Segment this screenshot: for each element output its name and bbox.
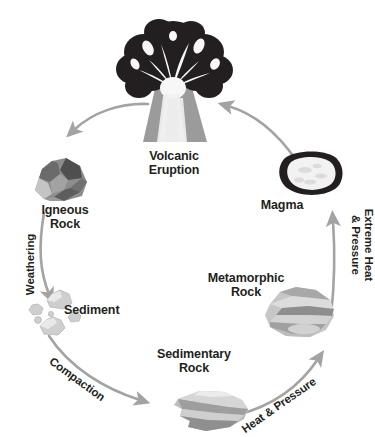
node-label-sediment: Sediment (64, 303, 140, 317)
node-label-metamorphic-rock: Metamorphic Rock (194, 271, 298, 299)
process-label-extreme-heat-and-pressure: Extreme Heat & Pressure (349, 199, 375, 291)
magma-icon (275, 148, 347, 198)
node-label-igneous-rock: Igneous Rock (28, 203, 102, 231)
igneous-rock-icon (30, 152, 92, 204)
node-label-sedimentary-rock: Sedimentary Rock (142, 347, 246, 375)
node-label-magma: Magma (250, 198, 314, 212)
node-label-volcanic-eruption: Volcanic Eruption (138, 149, 210, 177)
volcano-icon (99, 8, 249, 148)
